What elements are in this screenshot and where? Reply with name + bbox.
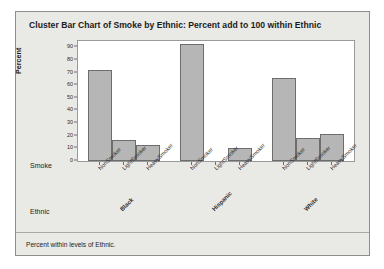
y-axis-tick-label: 10 bbox=[67, 144, 73, 150]
y-axis-tick-label: 60 bbox=[67, 81, 73, 87]
bar bbox=[180, 44, 204, 161]
footnote-separator bbox=[16, 232, 369, 233]
footnote-text: Percent within levels of Ethnic. bbox=[26, 241, 115, 248]
y-axis-tick-label: 90 bbox=[67, 43, 73, 49]
y-axis-ticks: 0102030405060708090 bbox=[54, 40, 73, 162]
y-axis-tick-label: 80 bbox=[67, 56, 73, 62]
y-axis-tick-label: 30 bbox=[67, 119, 73, 125]
y-axis-tick-label: 70 bbox=[67, 69, 73, 75]
x-axis-group-labels: BlackHispanicWhite bbox=[77, 208, 367, 242]
chart-title: Cluster Bar Chart of Smoke by Ethnic: Pe… bbox=[29, 20, 321, 30]
plot-inner bbox=[78, 41, 354, 161]
smoke-axis-title: Smoke bbox=[30, 162, 52, 169]
chart-page: Cluster Bar Chart of Smoke by Ethnic: Pe… bbox=[0, 0, 384, 269]
y-axis-tick-label: 40 bbox=[67, 106, 73, 112]
y-axis-tick-label: 20 bbox=[67, 132, 73, 138]
bar bbox=[88, 70, 112, 161]
y-axis-title: Percent bbox=[14, 48, 23, 74]
plot-area bbox=[77, 40, 355, 162]
bar bbox=[272, 78, 296, 161]
y-axis-tick-label: 50 bbox=[67, 94, 73, 100]
y-axis-tick-label: 0 bbox=[70, 157, 73, 163]
ethnic-axis-title: Ethnic bbox=[30, 208, 49, 215]
chart-panel: Cluster Bar Chart of Smoke by Ethnic: Pe… bbox=[15, 11, 370, 256]
